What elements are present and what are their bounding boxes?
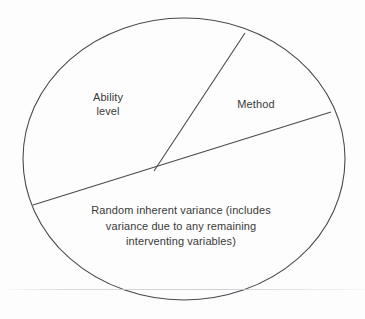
figure-container: Ability level Method Random inherent var… (0, 0, 365, 319)
variance-pie-diagram (0, 0, 365, 319)
segment-label-random-inherent-variance: Random inherent variance (includes varia… (73, 203, 289, 250)
long-chord-line (33, 112, 331, 205)
segment-label-method: Method (216, 97, 296, 111)
paper-edge-shadow (0, 289, 365, 290)
segment-label-ability-level: Ability level (68, 90, 148, 118)
circle-outline (23, 18, 345, 300)
